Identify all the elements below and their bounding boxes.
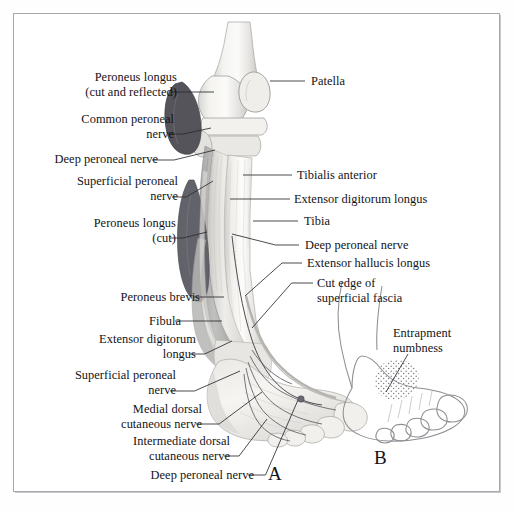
label-line: longus [99, 347, 196, 362]
label-line: Patella [311, 74, 345, 89]
label-line: Superficial peroneal [75, 368, 176, 383]
label-deep-peroneal-nerve-upper: Deep peroneal nerve [55, 152, 158, 167]
panel-letter-b: B [374, 447, 387, 469]
label-line: Deep peroneal nerve [151, 468, 254, 483]
label-line: Peroneus longus [85, 70, 177, 85]
label-line: numbness [393, 341, 451, 356]
label-line: (cut and reflected) [85, 85, 177, 100]
label-extensor-digitorum-longus-lower: Extensor digitorumlongus [99, 332, 196, 361]
label-line: Peroneus brevis [120, 290, 200, 305]
label-intermediate-dorsal-cutaneous-nerve: Intermediate dorsalcutaneous nerve [133, 434, 230, 463]
label-cut-edge-superficial-fascia: Cut edge ofsuperficial fascia [317, 276, 402, 305]
label-superficial-peroneal-nerve-upper: Superficial peronealnerve [77, 174, 178, 203]
label-line: Extensor digitorum [99, 332, 196, 347]
label-line: Deep peroneal nerve [305, 238, 408, 253]
label-deep-peroneal-nerve-leg: Deep peroneal nerve [305, 238, 408, 253]
label-line: cutaneous nerve [121, 417, 202, 432]
label-extensor-digitorum-longus-upper: Extensor digitorum longus [294, 192, 427, 207]
label-tibialis-anterior: Tibialis anterior [297, 168, 377, 183]
label-line: Tibia [304, 214, 330, 229]
label-entrapment-numbness: Entrapmentnumbness [393, 326, 451, 355]
label-line: cutaneous nerve [133, 449, 230, 464]
label-line: Cut edge of [317, 276, 402, 291]
label-line: Fibula [149, 314, 181, 329]
label-line: Superficial peroneal [77, 174, 178, 189]
label-line: Common peroneal [81, 112, 174, 127]
label-line: nerve [75, 383, 176, 398]
label-deep-peroneal-nerve-foot: Deep peroneal nerve [151, 468, 254, 483]
label-tibia: Tibia [304, 214, 330, 229]
label-line: Peroneus longus [94, 216, 176, 231]
label-common-peroneal-nerve: Common peronealnerve [81, 112, 174, 141]
label-fibula: Fibula [149, 314, 181, 329]
label-extensor-hallucis-longus: Extensor hallucis longus [307, 256, 430, 271]
label-line: Intermediate dorsal [133, 434, 230, 449]
label-peroneus-longus-cut-reflected: Peroneus longus(cut and reflected) [85, 70, 177, 99]
label-line: Deep peroneal nerve [55, 152, 158, 167]
label-medial-dorsal-cutaneous-nerve: Medial dorsalcutaneous nerve [121, 402, 202, 431]
label-line: superficial fascia [317, 291, 402, 306]
label-line: nerve [81, 127, 174, 142]
label-peroneus-longus-cut: Peroneus longus(cut) [94, 216, 176, 245]
label-line: (cut) [94, 231, 176, 246]
label-line: Medial dorsal [121, 402, 202, 417]
panel-letter-a: A [268, 463, 282, 485]
label-superficial-peroneal-nerve-lower: Superficial peronealnerve [75, 368, 176, 397]
label-line: Extensor digitorum longus [294, 192, 427, 207]
label-line: Extensor hallucis longus [307, 256, 430, 271]
anatomy-figure-root: Peroneus longus(cut and reflected)Common… [0, 0, 514, 512]
label-patella: Patella [311, 74, 345, 89]
label-line: Entrapment [393, 326, 451, 341]
label-line: Tibialis anterior [297, 168, 377, 183]
label-line: nerve [77, 189, 178, 204]
label-peroneus-brevis: Peroneus brevis [120, 290, 200, 305]
